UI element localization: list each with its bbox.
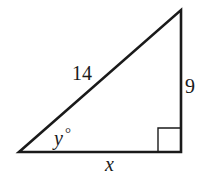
angle-variable-label: y: [52, 127, 63, 150]
degree-symbol: °: [65, 125, 71, 141]
triangle: [19, 10, 181, 152]
hypotenuse-label: 14: [72, 62, 92, 84]
horizontal-leg-label: x: [104, 153, 114, 174]
vertical-leg-label: 9: [185, 75, 195, 97]
right-triangle-diagram: 14 9 x y °: [0, 0, 211, 174]
right-angle-marker: [158, 128, 181, 152]
